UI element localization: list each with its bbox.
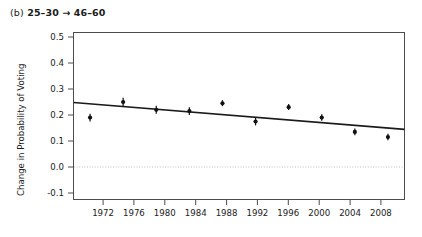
x-tick-label: 2004	[339, 208, 361, 218]
data-point	[287, 105, 291, 109]
x-tick-label: 1980	[154, 208, 176, 218]
y-tick-label: -0.1	[47, 188, 64, 198]
y-tick-label: 0.2	[50, 110, 64, 120]
data-point	[353, 130, 357, 134]
x-axis-tick-labels: 1972 1976 1980 1984 1988 1992 1996 2000 …	[92, 208, 392, 218]
x-tick-label: 1992	[246, 208, 268, 218]
data-point	[88, 116, 92, 120]
y-axis-title: Change in Probability of Voting	[16, 63, 26, 196]
y-tick-label: 0.1	[50, 136, 64, 146]
y-axis-tick-labels: 0.5 0.4 0.3 0.2 0.1 0.0 -0.1	[47, 32, 64, 198]
y-tick-label: 0.5	[50, 32, 64, 42]
x-tick-label: 1976	[123, 208, 145, 218]
y-tick-label: 0.3	[50, 84, 64, 94]
y-tick-label: 0.0	[50, 162, 64, 172]
x-tick-label: 1988	[216, 208, 238, 218]
figure-panel: (b) 25–30 → 46–60 Change in Probability …	[0, 0, 422, 237]
scatter-plot: Change in Probability of Voting 0.5 0.4 …	[0, 0, 422, 237]
trend-line	[74, 103, 405, 130]
data-point	[320, 116, 324, 120]
data-point	[121, 100, 125, 104]
y-axis-ticks	[68, 37, 74, 193]
x-tick-label: 1984	[185, 208, 207, 218]
y-tick-label: 0.4	[50, 58, 64, 68]
x-tick-label: 2000	[308, 208, 330, 218]
x-tick-label: 1972	[92, 208, 114, 218]
data-point	[386, 135, 390, 139]
data-point-group	[88, 98, 390, 140]
data-point	[220, 101, 224, 105]
x-tick-label: 2008	[370, 208, 392, 218]
data-point	[187, 109, 191, 113]
data-point	[154, 108, 158, 112]
x-axis-ticks	[103, 200, 381, 206]
x-tick-label: 1996	[277, 208, 299, 218]
data-point	[253, 119, 257, 123]
